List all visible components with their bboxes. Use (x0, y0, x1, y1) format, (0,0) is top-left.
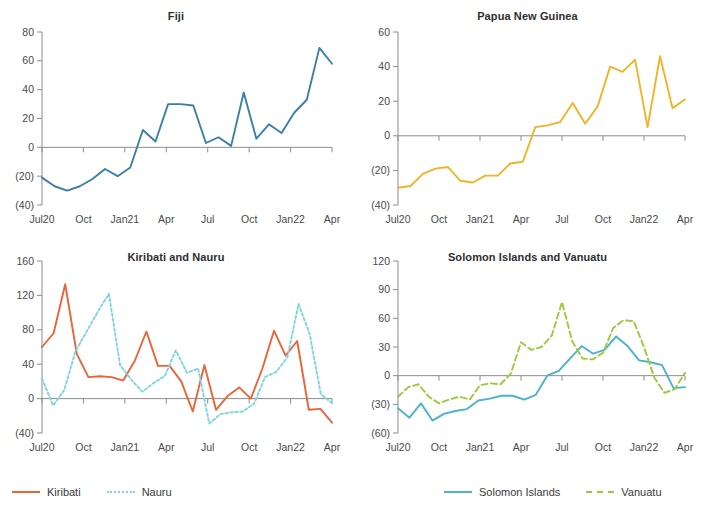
svg-text:90: 90 (378, 283, 390, 295)
svg-text:(40): (40) (15, 427, 34, 439)
svg-text:60: 60 (378, 312, 390, 324)
svg-text:60: 60 (378, 26, 390, 38)
svg-text:Apr: Apr (158, 441, 175, 453)
svg-text:40: 40 (22, 83, 34, 95)
svg-text:Jan22: Jan22 (630, 441, 659, 453)
svg-text:0: 0 (384, 129, 390, 141)
svg-text:120: 120 (372, 255, 390, 267)
svg-text:(40): (40) (15, 199, 34, 211)
chart-kiribati-and-nauru: (40)04080120160Jul20OctJan21AprJulOctJan… (0, 245, 352, 473)
svg-text:Apr: Apr (324, 441, 341, 453)
svg-text:Oct: Oct (75, 213, 91, 225)
svg-text:Oct: Oct (595, 441, 611, 453)
legend-label-nauru: Nauru (142, 486, 172, 498)
panel-papua-new-guinea: Papua New Guinea (40)(20)0204060Jul20Oct… (352, 0, 703, 245)
svg-text:(20): (20) (371, 164, 390, 176)
svg-text:(60): (60) (371, 427, 390, 439)
svg-text:Jan21: Jan21 (111, 213, 140, 225)
legend-line-icon-kiribati (12, 491, 40, 493)
svg-text:80: 80 (22, 26, 34, 38)
svg-text:Jul: Jul (201, 213, 214, 225)
svg-text:Apr: Apr (677, 213, 694, 225)
svg-text:Jul20: Jul20 (385, 441, 410, 453)
legend-item-vanuatu[interactable]: Vanuatu (586, 486, 661, 498)
charts-grid: Fiji (40)(20)020406080Jul20OctJan21AprJu… (0, 0, 703, 511)
svg-text:60: 60 (22, 54, 34, 66)
chart-papua-new-guinea: (40)(20)0204060Jul20OctJan21AprJulOctJan… (352, 0, 703, 245)
svg-text:Jul: Jul (201, 441, 214, 453)
legend-label-kiribati: Kiribati (47, 486, 81, 498)
svg-text:40: 40 (22, 358, 34, 370)
svg-text:Jul20: Jul20 (29, 441, 54, 453)
legend-item-solomon-islands[interactable]: Solomon Islands (444, 486, 560, 498)
svg-text:Jan22: Jan22 (276, 441, 305, 453)
svg-text:Apr: Apr (677, 441, 694, 453)
svg-text:Apr: Apr (513, 213, 530, 225)
legend-item-nauru[interactable]: Nauru (107, 486, 172, 498)
svg-text:Jan21: Jan21 (466, 213, 495, 225)
panel-kiribati-and-nauru: Kiribati and Nauru (40)04080120160Jul20O… (0, 245, 352, 473)
svg-text:Jan21: Jan21 (466, 441, 495, 453)
svg-text:Oct: Oct (75, 441, 91, 453)
chart-solomon-islands-and-vanuatu: (60)(30)0306090120Jul20OctJan21AprJulOct… (352, 245, 703, 473)
legend-label-solomon-islands: Solomon Islands (479, 486, 560, 498)
svg-text:Jul20: Jul20 (29, 213, 54, 225)
legend-kiribati-and-nauru: Kiribati Nauru (0, 473, 352, 511)
svg-text:120: 120 (16, 289, 34, 301)
svg-text:Jan22: Jan22 (276, 213, 305, 225)
chart-fiji: (40)(20)020406080Jul20OctJan21AprJulOctJ… (0, 0, 352, 245)
svg-text:Oct: Oct (595, 213, 611, 225)
svg-text:0: 0 (28, 392, 34, 404)
legend-line-icon-vanuatu (586, 491, 614, 493)
svg-text:20: 20 (22, 112, 34, 124)
svg-text:(30): (30) (371, 398, 390, 410)
svg-text:(40): (40) (371, 199, 390, 211)
svg-text:160: 160 (16, 255, 34, 267)
svg-text:Jul: Jul (555, 441, 568, 453)
svg-text:Oct: Oct (431, 213, 447, 225)
svg-text:Apr: Apr (158, 213, 175, 225)
legend-label-vanuatu: Vanuatu (621, 486, 661, 498)
svg-text:0: 0 (384, 369, 390, 381)
legend-line-icon-solomon-islands (444, 491, 472, 493)
svg-text:Jan21: Jan21 (111, 441, 140, 453)
svg-text:40: 40 (378, 60, 390, 72)
svg-text:Apr: Apr (324, 213, 341, 225)
svg-text:20: 20 (378, 95, 390, 107)
svg-text:30: 30 (378, 341, 390, 353)
svg-text:(20): (20) (15, 170, 34, 182)
panel-solomon-islands-and-vanuatu: Solomon Islands and Vanuatu (60)(30)0306… (352, 245, 703, 473)
svg-text:80: 80 (22, 323, 34, 335)
legend-solomon-islands-and-vanuatu: Solomon Islands Vanuatu (352, 473, 703, 511)
legend-line-icon-nauru (107, 491, 135, 493)
svg-text:Oct: Oct (241, 213, 257, 225)
svg-text:Apr: Apr (513, 441, 530, 453)
svg-text:Oct: Oct (241, 441, 257, 453)
svg-text:0: 0 (28, 141, 34, 153)
svg-text:Jul20: Jul20 (385, 213, 410, 225)
panel-fiji: Fiji (40)(20)020406080Jul20OctJan21AprJu… (0, 0, 352, 245)
svg-text:Jan22: Jan22 (630, 213, 659, 225)
svg-text:Oct: Oct (431, 441, 447, 453)
legend-item-kiribati[interactable]: Kiribati (12, 486, 81, 498)
svg-text:Jul: Jul (555, 213, 568, 225)
